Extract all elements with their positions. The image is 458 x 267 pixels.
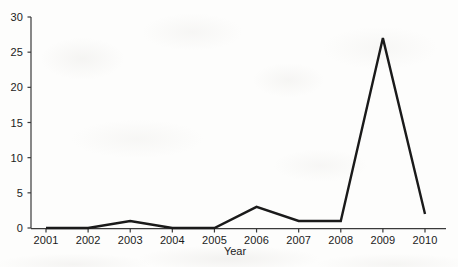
x-tick-label: 2007 — [286, 234, 311, 246]
x-tick-label: 2001 — [34, 234, 59, 246]
y-tick-label: 5 — [0, 187, 23, 199]
y-tick-label: 25 — [0, 46, 23, 58]
y-tick-label: 10 — [0, 152, 23, 164]
data-series-line — [46, 38, 425, 228]
x-tick-label: 2003 — [118, 234, 143, 246]
y-tick-label: 15 — [0, 117, 23, 129]
x-tick-label: 2010 — [413, 234, 438, 246]
y-tick-label: 20 — [0, 81, 23, 93]
x-tick-label: 2004 — [160, 234, 185, 246]
x-tick-label: 2008 — [328, 234, 353, 246]
x-tick-label: 2006 — [244, 234, 269, 246]
line-chart-figure: 051015202530 200120022003200420052006200… — [0, 0, 458, 267]
x-axis-title: Year — [224, 245, 246, 257]
plot-area — [0, 0, 458, 267]
y-tick-label: 30 — [0, 11, 23, 23]
y-tick-label: 0 — [0, 222, 23, 234]
x-tick-label: 2002 — [76, 234, 101, 246]
x-tick-label: 2009 — [370, 234, 395, 246]
